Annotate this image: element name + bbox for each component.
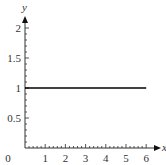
x-tick-labels: 0123456 bbox=[5, 152, 149, 164]
x-tick-label: 5 bbox=[123, 152, 129, 164]
y-tick-labels: 0.511.52 bbox=[7, 22, 21, 124]
y-axis-label: y bbox=[21, 1, 27, 13]
x-tick-label: 6 bbox=[143, 152, 149, 164]
x-axis-label: x bbox=[161, 141, 166, 153]
y-tick-label: 1.5 bbox=[7, 52, 21, 64]
y-tick-label: 1 bbox=[16, 82, 22, 94]
line-chart: 0123456 0.511.52 x y bbox=[0, 0, 166, 165]
y-axis-minor-ticks bbox=[25, 28, 29, 142]
y-axis-arrow-icon bbox=[22, 16, 28, 23]
x-tick-label: 2 bbox=[63, 152, 69, 164]
x-axis-minor-ticks bbox=[29, 144, 146, 148]
x-tick-label: 3 bbox=[83, 152, 89, 164]
x-tick-label: 4 bbox=[103, 152, 109, 164]
y-tick-label: 2 bbox=[16, 22, 22, 34]
x-tick-label: 1 bbox=[42, 152, 48, 164]
x-tick-label: 0 bbox=[5, 152, 11, 164]
x-axis-arrow-icon bbox=[154, 145, 161, 151]
y-tick-label: 0.5 bbox=[7, 112, 21, 124]
